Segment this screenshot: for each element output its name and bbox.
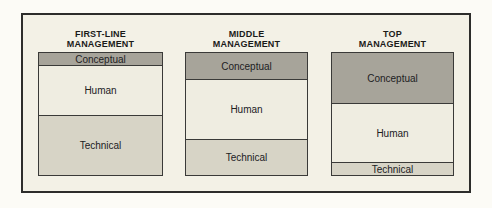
segment-label: Conceptual [75, 54, 126, 65]
segment-conceptual: Conceptual [39, 53, 162, 65]
segment-conceptual: Conceptual [186, 53, 307, 79]
segment-label: Human [230, 104, 262, 115]
segment-human: Human [39, 65, 162, 115]
segment-technical: Technical [332, 162, 453, 175]
segment-human: Human [186, 79, 307, 139]
skill-box-middle: Conceptual Human Technical [185, 52, 308, 176]
header-line: MANAGEMENT [359, 40, 427, 50]
column-header-first-line: FIRST-LINE MANAGEMENT [38, 25, 163, 52]
column-header-middle: MIDDLE MANAGEMENT [185, 25, 308, 52]
segment-label: Conceptual [367, 73, 418, 84]
column-header-top: TOP MANAGEMENT [331, 25, 454, 52]
skill-box-top: Conceptual Human Technical [331, 52, 454, 176]
column-first-line-management: FIRST-LINE MANAGEMENT Conceptual Human T… [38, 25, 163, 176]
segment-conceptual: Conceptual [332, 53, 453, 103]
segment-human: Human [332, 103, 453, 162]
management-skills-diagram: FIRST-LINE MANAGEMENT Conceptual Human T… [0, 0, 492, 208]
header-line: MANAGEMENT [213, 40, 281, 50]
segment-label: Technical [226, 152, 268, 163]
segment-technical: Technical [186, 139, 307, 175]
segment-label: Technical [372, 164, 414, 175]
column-top-management: TOP MANAGEMENT Conceptual Human Technica… [331, 25, 454, 176]
segment-technical: Technical [39, 115, 162, 175]
segment-label: Human [84, 85, 116, 96]
skill-box-first-line: Conceptual Human Technical [38, 52, 163, 176]
header-line: MANAGEMENT [67, 40, 135, 50]
segment-label: Technical [80, 140, 122, 151]
column-middle-management: MIDDLE MANAGEMENT Conceptual Human Techn… [185, 25, 308, 176]
segment-label: Human [376, 128, 408, 139]
segment-label: Conceptual [221, 61, 272, 72]
